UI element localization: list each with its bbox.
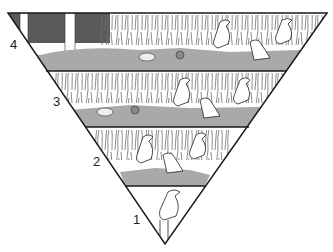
pond-water <box>60 105 300 127</box>
level-3-band <box>0 71 333 127</box>
level-label-4: 4 <box>10 38 17 51</box>
tree-trunk <box>65 13 75 53</box>
reeds <box>95 130 230 160</box>
level-label-2: 2 <box>93 155 100 168</box>
level-label-3: 3 <box>53 95 60 108</box>
level-label-1: 1 <box>133 213 140 226</box>
crab-icon <box>131 106 139 114</box>
pyramid-diagram <box>0 0 333 252</box>
duck-icon <box>97 108 113 116</box>
crab-icon <box>176 51 184 59</box>
duck-icon <box>139 53 155 61</box>
